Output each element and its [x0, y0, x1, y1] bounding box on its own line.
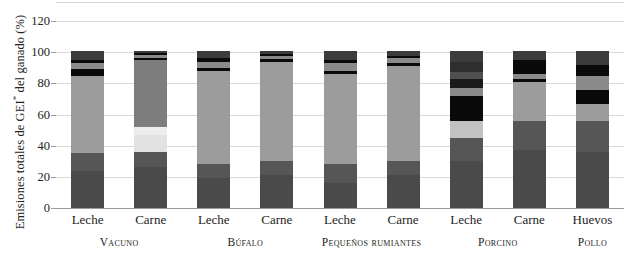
y-axis-title-text-tail: del ganado (%): [14, 15, 28, 96]
y-axis-title: Emisiones totales de GEI* del ganado (%): [10, 6, 30, 238]
plot-area: 020406080100120: [56, 21, 624, 208]
bar-segment-6: [197, 58, 230, 61]
bar-segment-7: [576, 51, 609, 65]
gridline-0: 0: [56, 208, 624, 209]
bar-porcino-leche[interactable]: [450, 21, 483, 208]
bar-segment-1: [71, 171, 104, 208]
bar-segment-9: [450, 51, 483, 62]
bar-pequeños-rumiantes-leche[interactable]: [324, 21, 357, 208]
bar-segment-6: [576, 65, 609, 76]
bar-segment-1: [324, 183, 357, 208]
bar-segment-7: [450, 72, 483, 78]
bar-segment-2: [71, 153, 104, 170]
bar-segment-1: [450, 161, 483, 208]
bar-segment-2: [197, 164, 230, 178]
bar-segment-4: [324, 71, 357, 74]
bar-segment-7: [260, 51, 293, 54]
bar-segment-4: [197, 68, 230, 71]
bar-segment-3: [387, 66, 420, 161]
bar-segment-4: [450, 96, 483, 121]
top-rule: [56, 2, 624, 3]
y-tick-label-80: 80: [38, 76, 51, 91]
bar-segment-6: [71, 60, 104, 63]
bar-segment-1: [513, 150, 546, 208]
bar-segment-3: [197, 71, 230, 165]
y-tick-label-100: 100: [31, 45, 50, 60]
bar-segment-5: [197, 62, 230, 68]
bar-pequeños-rumiantes-carne[interactable]: [387, 21, 420, 208]
bar-segment-3: [260, 62, 293, 162]
bar-segment-3: [450, 121, 483, 138]
y-tick-mark-0: [51, 208, 56, 209]
bar-segment-1: [576, 152, 609, 208]
bar-segment-6: [134, 58, 167, 60]
x-axis-group-label-pollo: Pollo: [492, 236, 628, 248]
bar-segment-1: [134, 167, 167, 208]
y-tick-label-40: 40: [38, 138, 51, 153]
bar-segment-7: [387, 51, 420, 56]
bar-segment-4: [513, 79, 546, 82]
bar-segment-4: [134, 127, 167, 135]
bar-segment-2: [387, 161, 420, 175]
bar-segment-8: [450, 62, 483, 73]
bar-segment-2: [513, 121, 546, 151]
bar-segment-1: [387, 175, 420, 208]
bar-segment-7: [513, 51, 546, 60]
bar-segment-5: [576, 76, 609, 90]
bar-vacuno-leche[interactable]: [71, 21, 104, 208]
bar-segment-6: [513, 60, 546, 74]
bar-pollo-huevos[interactable]: [576, 21, 609, 208]
bar-segment-5: [134, 60, 167, 127]
y-axis-title-asterisk: *: [11, 96, 21, 101]
bar-segment-6: [324, 60, 357, 63]
bar-segment-4: [387, 63, 420, 66]
bar-segment-4: [260, 59, 293, 61]
x-axis-label-8: Huevos: [552, 212, 628, 228]
bar-segment-9: [134, 51, 167, 53]
y-axis-title-text: Emisiones totales de GEI: [14, 100, 28, 229]
y-tick-label-20: 20: [38, 169, 51, 184]
bar-segment-3: [513, 82, 546, 121]
bar-segment-1: [197, 178, 230, 208]
bar-segment-5: [324, 63, 357, 71]
y-tick-label-120: 120: [31, 14, 50, 29]
bar-segment-7: [324, 51, 357, 60]
bar-segment-5: [513, 74, 546, 79]
bar-búfalo-carne[interactable]: [260, 21, 293, 208]
bar-segment-7: [197, 51, 230, 59]
bar-segment-2: [576, 121, 609, 152]
bar-segment-7: [71, 51, 104, 60]
bar-segment-6: [450, 79, 483, 88]
bar-porcino-carne[interactable]: [513, 21, 546, 208]
bar-segment-5: [387, 58, 420, 63]
bar-segment-3: [324, 74, 357, 164]
bar-segment-6: [387, 56, 420, 58]
bar-segment-8: [134, 53, 167, 55]
bar-segment-7: [134, 55, 167, 57]
bar-segment-2: [324, 164, 357, 183]
bar-segment-5: [260, 56, 293, 59]
y-tick-label-60: 60: [38, 107, 51, 122]
bar-segment-1: [260, 175, 293, 208]
bar-segment-2: [450, 138, 483, 161]
bar-segment-4: [71, 69, 104, 75]
bar-segment-3: [71, 76, 104, 154]
bar-segment-4: [576, 90, 609, 104]
bar-búfalo-leche[interactable]: [197, 21, 230, 208]
bar-segment-3: [134, 135, 167, 152]
bar-segment-5: [71, 63, 104, 69]
bar-segment-2: [260, 161, 293, 175]
bar-segment-2: [134, 152, 167, 168]
bar-segment-5: [450, 88, 483, 96]
bar-vacuno-carne[interactable]: [134, 21, 167, 208]
bar-series: [56, 21, 624, 208]
bar-segment-3: [576, 104, 609, 121]
x-axis-group-labels: VacunoBúfaloPequeños rumiantesPorcinoPol…: [56, 236, 624, 258]
x-axis-labels: LecheCarneLecheCarneLecheCarneLecheCarne…: [56, 212, 624, 232]
bar-segment-6: [260, 54, 293, 56]
chart-root: Emisiones totales de GEI* del ganado (%)…: [0, 0, 628, 274]
